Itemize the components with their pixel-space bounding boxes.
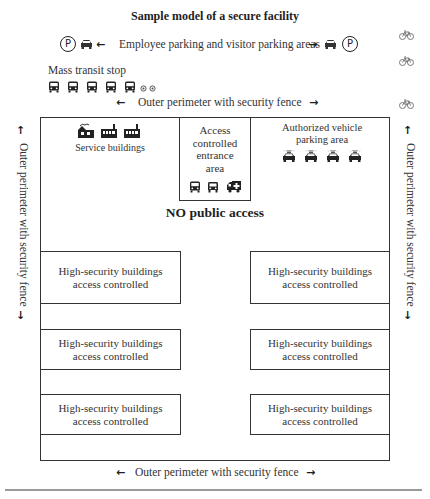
authorized-parking-label-line: Authorized vehicle	[262, 122, 382, 134]
bus-row	[48, 81, 168, 93]
parking-row: P ← Employee parking and visitor parking…	[60, 36, 360, 54]
perimeter-right-label: Outer perimeter with security fence	[405, 143, 417, 306]
ambulance-icon	[226, 180, 242, 193]
bus-icon	[67, 81, 79, 93]
perimeter-top: ← Outer perimeter with security fence →	[116, 96, 336, 110]
entrance-label-line: Access	[180, 124, 250, 137]
police-car-icon	[326, 149, 340, 163]
perimeter-top-label: Outer perimeter with security fence	[138, 96, 301, 108]
authorized-parking-area: Authorized vehicle parking area	[262, 122, 382, 168]
arrow-left-icon: ←	[96, 38, 105, 51]
entrance-area: Access controlled entrance area	[179, 117, 251, 201]
diagram-title: Sample model of a secure facility	[0, 9, 430, 24]
arrow-up-icon: ↑	[16, 124, 25, 137]
parking-sign-icon: P	[342, 36, 358, 52]
bus-icon	[86, 81, 98, 93]
high-security-building: High-security buildingsaccess controlled	[40, 251, 181, 304]
service-buildings: Service buildings	[70, 123, 150, 159]
perimeter-bottom: ← Outer perimeter with security fence →	[116, 466, 336, 480]
service-buildings-label: Service buildings	[60, 142, 160, 153]
factory-icon	[100, 123, 118, 139]
building-label-line2: access controlled	[41, 278, 180, 291]
building-label-line2: access controlled	[251, 350, 389, 363]
car-icon	[80, 39, 93, 50]
bicycle-icon	[399, 99, 414, 109]
police-car-icon	[282, 149, 296, 163]
high-security-building: High-security buildingsaccess controlled	[250, 329, 390, 370]
bottom-divider	[5, 489, 422, 491]
bus-icon	[124, 81, 136, 93]
high-security-building: High-security buildingsaccess controlled	[250, 394, 390, 435]
building-label-line2: access controlled	[41, 350, 180, 363]
no-public-access-label: NO public access	[40, 205, 390, 221]
small-circle-icon	[140, 85, 147, 92]
mass-transit-label: Mass transit stop	[48, 64, 126, 76]
arrow-right-icon: →	[308, 38, 317, 51]
building-label-line1: High-security buildings	[251, 265, 389, 278]
parking-sign-icon: P	[60, 36, 76, 52]
bus-icon	[105, 81, 117, 93]
bus-icon	[207, 181, 219, 193]
police-car-icon	[304, 149, 318, 163]
arrow-left-icon: ←	[116, 96, 125, 109]
building-label-line1: High-security buildings	[41, 265, 180, 278]
building-label-line1: High-security buildings	[41, 402, 180, 415]
small-circle-icon	[149, 85, 156, 92]
arrow-right-icon: →	[309, 96, 318, 109]
arrow-left-icon: ←	[116, 466, 125, 479]
arrow-down-icon: ↓	[16, 309, 25, 322]
arrow-up-icon: ↑	[403, 124, 412, 137]
high-security-building: High-security buildingsaccess controlled	[40, 394, 181, 435]
entrance-label-line: area	[180, 162, 250, 175]
authorized-parking-label-line: parking area	[262, 134, 382, 146]
bicycle-icon	[399, 56, 414, 66]
bus-icon	[48, 81, 60, 93]
arrow-down-icon: ↓	[403, 309, 412, 322]
building-label-line1: High-security buildings	[251, 337, 389, 350]
car-icon	[324, 39, 337, 50]
factory-icon	[123, 123, 141, 139]
entrance-label-line: controlled	[180, 137, 250, 150]
building-label-line2: access controlled	[41, 415, 180, 428]
building-label-line2: access controlled	[251, 278, 389, 291]
perimeter-bottom-label: Outer perimeter with security fence	[135, 466, 298, 478]
building-label-line1: High-security buildings	[251, 402, 389, 415]
building-label-line1: High-security buildings	[41, 337, 180, 350]
entrance-label-line: entrance	[180, 149, 250, 162]
police-car-icon	[348, 149, 362, 163]
factory-icon	[77, 123, 95, 139]
high-security-building: High-security buildingsaccess controlled	[40, 329, 181, 370]
high-security-building: High-security buildingsaccess controlled	[250, 251, 390, 304]
perimeter-left-label: Outer perimeter with security fence	[18, 143, 30, 306]
arrow-right-icon: →	[306, 466, 315, 479]
building-label-line2: access controlled	[251, 415, 389, 428]
bus-icon	[189, 181, 201, 193]
bicycle-icon	[399, 30, 414, 40]
parking-label: Employee parking and visitor parking are…	[119, 38, 320, 50]
